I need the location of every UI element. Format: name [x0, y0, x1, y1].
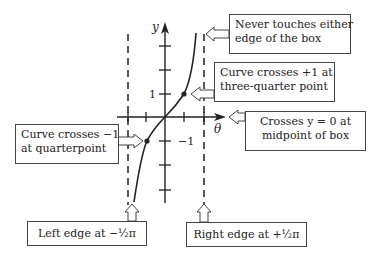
note-right-edge: Right edge at +½π — [186, 222, 307, 247]
pointer-arrow-icon — [118, 134, 143, 148]
note-never-touches: Never touches either edge of the box — [229, 14, 351, 54]
tick-label-minus-1: −1 — [178, 135, 194, 148]
note-crosses-minus-one: Curve crosses −1 at quarterpoint — [15, 124, 119, 164]
point-minus-one — [144, 138, 149, 143]
point-plus-one — [181, 91, 186, 96]
note-crosses-plus-one: Curve crosses +1 at three-quarter point — [214, 62, 335, 102]
pointer-arrow-icon — [125, 204, 139, 221]
note-left-edge: Left edge at −½π — [27, 221, 147, 246]
note-crosses-zero: Crosses y = 0 at midpoint of box — [245, 111, 366, 151]
x-axis-label: θ — [214, 122, 222, 136]
tick-label-1: 1 — [149, 88, 156, 101]
y-axis-label: y — [151, 20, 159, 34]
pointer-arrow-icon — [206, 27, 229, 41]
pointer-arrow-icon — [229, 110, 245, 124]
pointer-arrow-icon — [191, 87, 214, 101]
pointer-arrow-icon — [197, 204, 211, 222]
